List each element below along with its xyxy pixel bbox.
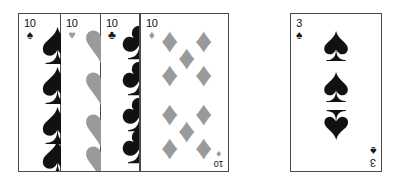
card-10-of-clubs[interactable]: 10 ♣ ♣ ♣ ♣ ♣ bbox=[100, 13, 140, 172]
spade-icon: ♠ bbox=[370, 145, 376, 157]
diamond-icon: ♦ bbox=[195, 57, 212, 91]
heart-icon: ♥ bbox=[83, 136, 102, 172]
card-10-of-spades[interactable]: 10 ♠ ♠ ♠ ♠ ♠ bbox=[18, 13, 62, 172]
card-3-of-spades[interactable]: 3 ♠ 3 ♠ ♠ ♠ ♠ bbox=[290, 13, 382, 172]
spade-icon: ♠ bbox=[27, 29, 33, 41]
spade-pip-column: ♠ ♠ ♠ bbox=[291, 24, 381, 147]
diamond-icon: ♦ bbox=[161, 57, 178, 91]
corner-index-bottom-right: 3 ♠ bbox=[370, 145, 376, 168]
diamond-icon: ♦ bbox=[178, 113, 195, 147]
heart-icon: ♥ bbox=[68, 29, 75, 41]
corner-index-top-left: 3 ♠ bbox=[296, 18, 302, 41]
corner-index-top-left: 10 ♠ bbox=[24, 18, 36, 41]
corner-index-top-left: 10 ♣ bbox=[106, 18, 118, 41]
corner-index-top-left: 10 ♥ bbox=[66, 18, 78, 41]
corner-rank: 10 bbox=[214, 159, 223, 168]
diamond-icon: ♦ bbox=[195, 130, 212, 164]
corner-index-top-left: 10 ♦ bbox=[146, 18, 158, 41]
spade-icon: ♠ bbox=[296, 29, 302, 41]
diamond-icon: ♦ bbox=[161, 130, 178, 164]
corner-index-bottom-right: 10 ♦ bbox=[214, 149, 223, 168]
diamond-icon: ♦ bbox=[216, 149, 221, 159]
card-10-of-diamonds[interactable]: 10 ♦ 10 ♦ ♦ ♦ ♦ ♦ ♦ ♦ ♦ ♦ ♦ ♦ bbox=[140, 13, 229, 172]
diamond-icon: ♦ bbox=[161, 23, 178, 57]
diamond-icon: ♦ bbox=[195, 96, 212, 130]
spade-icon: ♠ bbox=[323, 106, 350, 147]
spade-icon: ♠ bbox=[41, 132, 62, 172]
diamond-icon: ♦ bbox=[195, 23, 212, 57]
playing-cards-scene: 10 ♠ ♠ ♠ ♠ ♠ 10 ♥ ♥ ♥ ♥ ♥ 10 ♣ ♣ ♣ ♣ ♣ 1… bbox=[0, 0, 420, 186]
diamond-icon: ♦ bbox=[178, 40, 195, 74]
card-10-of-hearts[interactable]: 10 ♥ ♥ ♥ ♥ ♥ bbox=[60, 13, 102, 172]
corner-rank: 3 bbox=[370, 157, 376, 168]
diamond-icon: ♦ bbox=[149, 29, 155, 41]
diamond-icon: ♦ bbox=[161, 96, 178, 130]
club-icon: ♣ bbox=[108, 29, 116, 41]
club-icon: ♣ bbox=[121, 122, 140, 166]
